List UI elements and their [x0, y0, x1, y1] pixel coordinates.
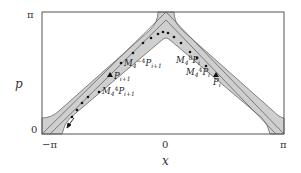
label-minv-pi1: M4−4Pi+1 — [124, 58, 162, 69]
y-tick-zero: 0 — [31, 125, 37, 135]
x-axis-label: x — [162, 155, 169, 167]
label-pi1: Pi+1 — [114, 72, 131, 82]
x-tick-pi: π — [280, 140, 287, 150]
label-m4-pi1: M44Pi+1 — [102, 86, 135, 97]
label-pi: Pi — [213, 78, 221, 88]
y-axis-label: p — [15, 78, 23, 90]
x-tick-neg-pi: −π — [42, 140, 57, 150]
y-tick-pi: π — [27, 10, 34, 20]
label-m4-pi: M44Pi — [186, 67, 210, 78]
label-m8-pi: M48Pi — [176, 55, 200, 66]
separatrix-band — [42, 12, 284, 134]
x-tick-zero: 0 — [162, 140, 168, 150]
